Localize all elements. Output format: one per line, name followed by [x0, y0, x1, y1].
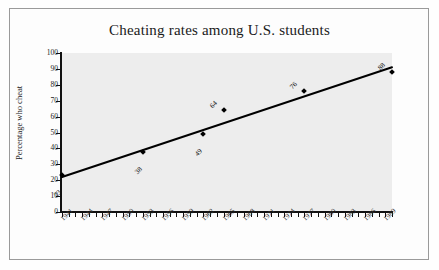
trendline — [0, 0, 439, 270]
chart-figure: Cheating rates among U.S. students 10090… — [0, 0, 439, 270]
